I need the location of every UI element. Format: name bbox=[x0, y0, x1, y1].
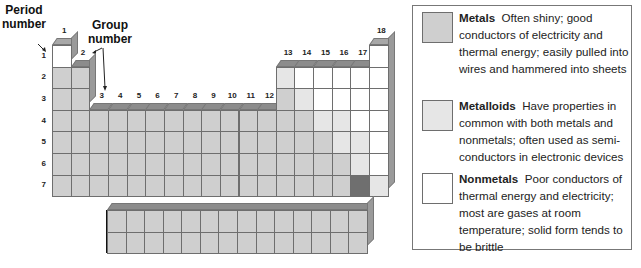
element-cell-p6-g18 bbox=[369, 153, 389, 176]
element-cell-p5-g7 bbox=[164, 131, 184, 154]
element-cell-p7-g9 bbox=[201, 175, 221, 198]
inner-transition-cell-r1-c14 bbox=[348, 210, 368, 233]
inner-transition-cell-r1-c2 bbox=[126, 210, 146, 233]
element-cell-p1-g1 bbox=[52, 45, 72, 68]
inner-transition-cell-r1-c9 bbox=[256, 210, 276, 233]
element-cell-p3-g14 bbox=[294, 88, 314, 111]
element-cell-p5-g13 bbox=[276, 131, 296, 154]
element-cell-p5-g17 bbox=[350, 131, 370, 154]
element-cell-p7-g15 bbox=[313, 175, 333, 198]
element-cell-p5-g16 bbox=[332, 131, 352, 154]
element-cell-p2-g2 bbox=[71, 67, 91, 90]
element-cell-p7-g14 bbox=[294, 175, 314, 198]
element-cell-p6-g14 bbox=[294, 153, 314, 176]
element-cell-p5-g5 bbox=[127, 131, 147, 154]
element-cell-p5-g18 bbox=[369, 131, 389, 154]
element-cell-p6-g1 bbox=[52, 153, 72, 176]
element-cell-p6-g7 bbox=[164, 153, 184, 176]
element-cell-p6-g10 bbox=[220, 153, 240, 176]
element-cell-p2-g16 bbox=[332, 67, 352, 90]
element-cell-p1-g18 bbox=[369, 45, 389, 68]
element-cell-p4-g12 bbox=[257, 110, 277, 133]
element-cell-p3-g2 bbox=[71, 88, 91, 111]
element-cell-p7-g12 bbox=[257, 175, 277, 198]
element-cell-p5-g12 bbox=[257, 131, 277, 154]
element-cell-p3-g1 bbox=[52, 88, 72, 111]
inner-transition-cell-r2-c9 bbox=[256, 232, 276, 255]
element-cell-p5-g14 bbox=[294, 131, 314, 154]
element-cell-p4-g8 bbox=[183, 110, 203, 133]
period-label-3: 3 bbox=[36, 94, 46, 103]
inner-transition-cell-r1-c3 bbox=[144, 210, 164, 233]
inner-transition-cell-r2-c6 bbox=[200, 232, 220, 255]
element-cell-p6-g12 bbox=[257, 153, 277, 176]
group-label-16: 16 bbox=[340, 48, 349, 57]
nonmetals-text: Nonmetals Poor conductors of thermal ene… bbox=[459, 170, 631, 255]
group-label-5: 5 bbox=[137, 91, 141, 100]
element-cell-p6-g8 bbox=[183, 153, 203, 176]
element-cell-p7-g10 bbox=[220, 175, 240, 198]
element-cell-p5-g11 bbox=[239, 131, 259, 154]
metals-swatch bbox=[422, 12, 453, 43]
element-cell-p4-g10 bbox=[220, 110, 240, 133]
element-cell-p6-g9 bbox=[201, 153, 221, 176]
inner-transition-cell-r1-c1 bbox=[107, 210, 127, 233]
metals-title: Metals bbox=[459, 11, 495, 24]
group-label-13: 13 bbox=[284, 48, 293, 57]
group-label-14: 14 bbox=[302, 48, 311, 57]
inner-transition-cell-r1-c4 bbox=[163, 210, 183, 233]
element-cell-p7-g5 bbox=[127, 175, 147, 198]
element-cell-p3-g16 bbox=[332, 88, 352, 111]
element-cell-p6-g6 bbox=[145, 153, 165, 176]
element-cell-p2-g15 bbox=[313, 67, 333, 90]
metalloids-title: Metalloids bbox=[459, 99, 516, 112]
element-cell-p7-g8 bbox=[183, 175, 203, 198]
group-label-4: 4 bbox=[118, 91, 122, 100]
group-label-1: 1 bbox=[62, 26, 66, 35]
element-cell-p4-g16 bbox=[332, 110, 352, 133]
element-cell-p5-g9 bbox=[201, 131, 221, 154]
group-label-2: 2 bbox=[81, 48, 85, 57]
metalloids-text: Metalloids Have properties in common wit… bbox=[459, 97, 631, 165]
element-cell-p7-g17 bbox=[350, 175, 370, 198]
element-cell-p5-g8 bbox=[183, 131, 203, 154]
element-cell-p4-g15 bbox=[313, 110, 333, 133]
group-label-15: 15 bbox=[321, 48, 330, 57]
element-cell-p4-g9 bbox=[201, 110, 221, 133]
element-cell-p4-g4 bbox=[108, 110, 128, 133]
element-cell-p6-g16 bbox=[332, 153, 352, 176]
element-cell-p3-g13 bbox=[276, 88, 296, 111]
inner-transition-cell-r1-c13 bbox=[330, 210, 350, 233]
element-cell-p4-g11 bbox=[239, 110, 259, 133]
element-cell-p5-g6 bbox=[145, 131, 165, 154]
lower-block-top-bevel bbox=[107, 203, 372, 210]
element-cell-p7-g7 bbox=[164, 175, 184, 198]
element-cell-p2-g18 bbox=[369, 67, 389, 90]
group-label-9: 9 bbox=[211, 91, 215, 100]
element-cell-p6-g4 bbox=[108, 153, 128, 176]
element-cell-p4-g6 bbox=[145, 110, 165, 133]
inner-transition-cell-r1-c10 bbox=[274, 210, 294, 233]
period-label-5: 5 bbox=[36, 137, 46, 146]
inner-transition-cell-r1-c6 bbox=[200, 210, 220, 233]
legend-box: Metals Often shiny; good conductors of e… bbox=[412, 5, 632, 250]
element-cell-p2-g14 bbox=[294, 67, 314, 90]
element-cell-p2-g17 bbox=[350, 67, 370, 90]
metalloids-swatch bbox=[422, 100, 453, 131]
element-cell-p7-g11 bbox=[239, 175, 259, 198]
cell-side-face bbox=[388, 31, 395, 189]
element-cell-p5-g15 bbox=[313, 131, 333, 154]
element-cell-p4-g14 bbox=[294, 110, 314, 133]
element-cell-p4-g7 bbox=[164, 110, 184, 133]
group-label-18: 18 bbox=[377, 26, 386, 35]
element-cell-p5-g2 bbox=[71, 131, 91, 154]
element-cell-p7-g1 bbox=[52, 175, 72, 198]
element-cell-p4-g1 bbox=[52, 110, 72, 133]
element-cell-p4-g3 bbox=[89, 110, 109, 133]
inner-transition-cell-r2-c14 bbox=[348, 232, 368, 255]
inner-transition-cell-r2-c2 bbox=[126, 232, 146, 255]
element-cell-p4-g5 bbox=[127, 110, 147, 133]
inner-transition-cell-r1-c12 bbox=[311, 210, 331, 233]
element-cell-p7-g2 bbox=[71, 175, 91, 198]
group-label-6: 6 bbox=[155, 91, 159, 100]
